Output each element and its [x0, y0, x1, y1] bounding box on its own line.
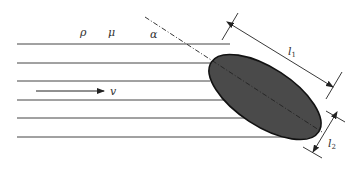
velocity-label: v [110, 86, 116, 97]
particle-ellipse [196, 38, 335, 156]
length-minor-subscript: 2 [332, 143, 336, 151]
angle-label: α [150, 29, 157, 40]
diagram-canvas [0, 0, 354, 169]
density-label: ρ [80, 27, 86, 38]
flow-diagram: ρ μ α v l1 l2 [0, 0, 354, 169]
length-major-subscript: 1 [292, 51, 296, 59]
length-major-label: l1 [288, 46, 296, 59]
viscosity-label: μ [108, 27, 115, 38]
length-minor-label: l2 [328, 138, 336, 151]
